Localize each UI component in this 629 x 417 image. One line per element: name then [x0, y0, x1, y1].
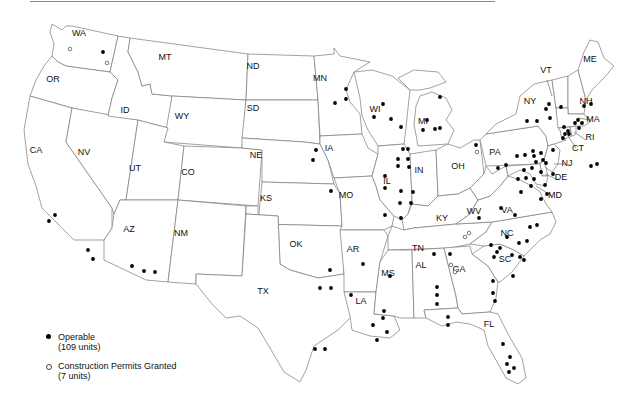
legend-item-construction-permits: Construction Permits Granted (7 units)	[44, 361, 177, 381]
state-label-VA: VA	[501, 205, 512, 215]
operable-unit-dot	[349, 293, 353, 297]
state-ME	[578, 40, 614, 100]
operable-unit-dot	[389, 117, 393, 121]
operable-unit-dot	[411, 190, 415, 194]
operable-unit-dot	[372, 115, 376, 119]
operable-unit-dot	[559, 105, 563, 109]
state-label-CA: CA	[30, 145, 43, 155]
state-label-WV: WV	[467, 206, 482, 216]
operable-unit-dot	[375, 338, 379, 342]
operable-unit-dot	[399, 125, 403, 129]
operable-unit-dot	[589, 102, 593, 106]
state-label-CT: CT	[572, 143, 584, 153]
state-label-WI: WI	[370, 104, 381, 114]
operable-unit-dot	[489, 243, 493, 247]
operable-unit-dot	[562, 125, 566, 129]
state-label-RI: RI	[586, 132, 595, 142]
operable-unit-dot	[595, 162, 599, 166]
state-label-WA: WA	[72, 28, 86, 38]
operable-unit-dot	[501, 342, 505, 346]
operable-unit-dot	[522, 168, 526, 172]
operable-unit-dot	[528, 225, 532, 229]
construction-permit-dot	[467, 231, 471, 235]
operable-unit-dot	[371, 323, 375, 327]
state-label-NJ: NJ	[562, 158, 573, 168]
operable-unit-dot	[329, 189, 333, 193]
operable-unit-dot	[529, 184, 533, 188]
operable-unit-dot	[381, 316, 385, 320]
legend-sublabel: (7 units)	[58, 371, 177, 381]
operable-unit-dot	[86, 248, 90, 252]
operable-unit-dot	[534, 160, 538, 164]
operable-unit-dot	[491, 291, 495, 295]
operable-unit-dot	[91, 257, 95, 261]
operable-unit-dot	[508, 355, 512, 359]
construction-permit-dot	[68, 47, 72, 51]
operable-unit-dot	[519, 190, 523, 194]
state-label-MS: MS	[381, 268, 395, 278]
state-label-MA: MA	[586, 114, 600, 124]
operable-unit-dot	[545, 192, 549, 196]
operable-unit-dot	[311, 158, 315, 162]
operable-unit-dot	[532, 154, 536, 158]
operable-unit-dot	[512, 366, 516, 370]
operable-unit-dot	[398, 201, 402, 205]
operable-unit-dot	[532, 177, 536, 181]
operable-unit-dot	[446, 315, 450, 319]
state-label-OK: OK	[289, 239, 302, 249]
operable-unit-dot	[406, 147, 410, 151]
operable-unit-dot	[510, 253, 514, 257]
operable-unit-dot	[477, 216, 481, 220]
operable-unit-dot	[577, 126, 581, 130]
state-label-TX: TX	[257, 286, 269, 296]
operable-unit-dot	[531, 149, 535, 153]
operable-unit-dot	[474, 143, 478, 147]
state-label-AL: AL	[415, 260, 426, 270]
state-label-AZ: AZ	[123, 224, 135, 234]
operable-unit-dot	[561, 136, 565, 140]
operable-unit-dot	[438, 95, 442, 99]
operable-unit-dot	[551, 148, 555, 152]
operable-unit-dot	[539, 197, 543, 201]
operable-unit-dot	[515, 154, 519, 158]
construction-permit-dot	[449, 263, 453, 267]
operable-unit-dot	[499, 206, 503, 210]
operable-unit-dot	[498, 246, 502, 250]
operable-unit-dot	[361, 262, 365, 266]
state-label-ME: ME	[583, 54, 597, 64]
operable-unit-dot	[563, 132, 567, 136]
operable-unit-dot	[539, 170, 543, 174]
operable-unit-dot	[544, 161, 548, 165]
operable-unit-dot	[504, 163, 508, 167]
operable-unit-dot	[513, 213, 517, 217]
operable-unit-dot	[517, 241, 521, 245]
construction-permit-dot	[105, 61, 109, 65]
operable-unit-dot	[493, 299, 497, 303]
operable-unit-dot	[522, 258, 526, 262]
operable-unit-dot	[381, 102, 385, 106]
map-legend: Operable (109 units) Construction Permit…	[44, 332, 177, 390]
state-label-TN: TN	[412, 243, 424, 253]
state-label-NY: NY	[524, 96, 537, 106]
operable-unit-dot	[344, 97, 348, 101]
operable-unit-dot	[541, 158, 545, 162]
operable-unit-dot	[446, 323, 450, 327]
legend-sublabel: (109 units)	[58, 342, 177, 352]
state-label-IA: IA	[325, 143, 334, 153]
state-label-CO: CO	[181, 167, 195, 177]
operable-unit-dot	[314, 148, 318, 152]
operable-unit-dot	[539, 151, 543, 155]
state-label-OH: OH	[451, 161, 465, 171]
operable-unit-dot	[396, 164, 400, 168]
operable-unit-dot	[551, 172, 555, 176]
operable-unit-dot	[505, 362, 509, 366]
state-label-VT: VT	[540, 65, 552, 75]
operable-unit-dot	[535, 223, 539, 227]
operable-unit-dot	[518, 255, 522, 259]
operable-unit-dot	[396, 157, 400, 161]
state-label-IN: IN	[415, 165, 424, 175]
state-label-NE: NE	[250, 150, 263, 160]
state-label-KY: KY	[436, 213, 448, 223]
state-label-MN: MN	[313, 73, 327, 83]
operable-unit-dot	[589, 164, 593, 168]
